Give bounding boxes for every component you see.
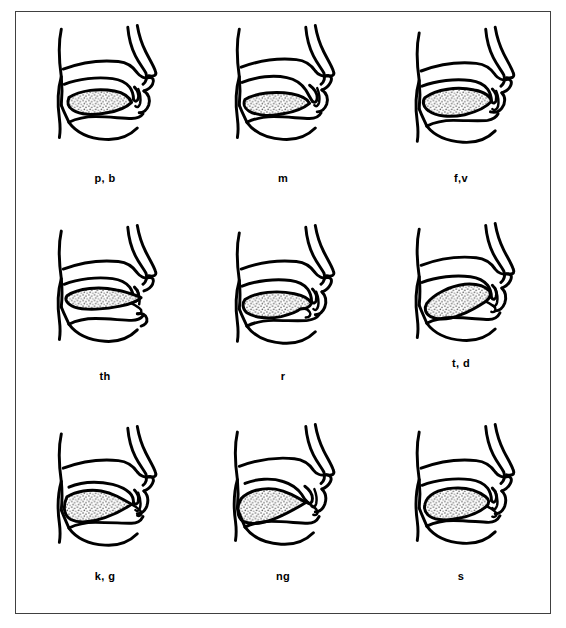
vocal-tract-diagram-f-v: [372, 14, 550, 166]
panel-grid: p, b: [16, 12, 550, 613]
panel-label-r: r: [194, 370, 372, 382]
panel-t-d: t, d: [372, 212, 550, 412]
figure-frame: p, b: [15, 11, 551, 614]
panel-s: s: [372, 413, 550, 613]
vocal-tract-diagram-ng: [194, 415, 372, 567]
vocal-tract-diagram-m: [194, 14, 372, 166]
panel-m: m: [194, 12, 372, 212]
panel-label-m: m: [194, 172, 372, 184]
vocal-tract-diagram-k-g: [16, 415, 194, 567]
panel-th: th: [16, 212, 194, 412]
vocal-tract-diagram-t-d: [372, 214, 550, 366]
panel-label-s: s: [372, 570, 550, 582]
panel-ng: ng: [194, 413, 372, 613]
panel-k-g: k, g: [16, 413, 194, 613]
panel-label-th: th: [16, 370, 194, 382]
vocal-tract-diagram-r: [194, 214, 372, 366]
panel-label-f-v: f,v: [372, 172, 550, 184]
vocal-tract-diagram-th: [16, 214, 194, 366]
panel-label-t-d: t, d: [372, 357, 550, 369]
panel-label-p-b: p, b: [16, 172, 194, 184]
panel-p-b: p, b: [16, 12, 194, 212]
panel-label-ng: ng: [194, 570, 372, 582]
vocal-tract-diagram-s: [372, 415, 550, 567]
panel-f-v: f,v: [372, 12, 550, 212]
vocal-tract-diagram-p-b: [16, 14, 194, 166]
panel-r: r: [194, 212, 372, 412]
panel-label-k-g: k, g: [16, 570, 194, 582]
